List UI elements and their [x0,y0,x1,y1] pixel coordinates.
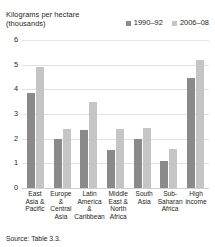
x-axis-category-label-line: Latin [74,190,104,198]
x-axis-category-label-line: Middle [106,190,131,198]
bar-group [102,40,129,188]
x-axis-category-label: Europe&CentralAsia [48,190,74,232]
x-axis-category-label-line: Africa [158,205,183,213]
bar[interactable] [27,93,35,188]
x-axis-category-label-line: Sub- [158,190,183,198]
x-axis-category-label: SouthAsia [131,190,157,232]
x-axis-category-label-line: Central [48,205,73,213]
bar[interactable] [134,139,142,188]
legend-label: 2006–08 [180,19,209,27]
bar[interactable] [89,102,97,188]
x-axis-category-label-line: Asia [48,213,73,221]
chart-header: Kilograms per hectare (thousands) 1990–9… [0,11,215,35]
legend-item[interactable]: 2006–08 [172,19,209,27]
bar-group [49,40,76,188]
bar-series-container [22,40,209,188]
legend-swatch-icon [126,21,131,26]
bar-group [22,40,49,188]
axis-title-line-1: Kilograms per hectare [6,10,79,19]
x-axis-category-label-line: East [23,190,48,198]
bar-group [182,40,209,188]
chart-legend: 1990–922006–08 [126,19,209,27]
y-axis-tick-label: 2 [14,135,18,143]
source-note: Source: Table 3.3. [6,235,61,243]
gridline [22,188,209,189]
bar-group [156,40,183,188]
bar-group [129,40,156,188]
bar[interactable] [169,149,177,188]
bar[interactable] [196,60,204,188]
legend-item[interactable]: 1990–92 [126,19,163,27]
bar[interactable] [63,129,71,188]
x-axis-category-label: MiddleEast &NorthAfrica [105,190,131,232]
bar[interactable] [116,129,124,188]
bar-group [75,40,102,188]
x-axis-category-label: EastAsia &Pacific [22,190,48,232]
x-axis-category-label: Sub-SaharanAfrica [157,190,183,232]
y-axis-ticks: 0123456 [0,40,22,188]
x-axis-category-label: Highincome [183,190,209,232]
x-axis-category-label-line: Asia [132,198,157,206]
x-axis-category-label: LatinAmerica&Caribbean [74,190,105,232]
x-axis-category-label-line: High [184,190,209,198]
y-axis-tick-label: 1 [14,159,18,167]
x-axis-category-label-line: income [184,198,209,206]
y-axis-tick-label: 5 [14,61,18,69]
bar[interactable] [54,139,62,188]
x-axis-category-label-line: America [74,198,104,206]
x-axis-category-label-line: North [106,205,131,213]
x-axis-category-label-line: East & [106,198,131,206]
bar[interactable] [107,150,115,188]
bar[interactable] [187,78,195,188]
y-axis-tick-label: 4 [14,85,18,93]
chart-figure: Kilograms per hectare (thousands) 1990–9… [0,0,215,247]
bar[interactable] [80,130,88,188]
x-axis-category-label-line: Africa [106,213,131,221]
y-axis-tick-label: 0 [14,184,18,192]
y-axis-tick-label: 3 [14,110,18,118]
x-axis-category-label-line: Europe [48,190,73,198]
x-axis-category-label-line: Saharan [158,198,183,206]
x-axis-category-labels: EastAsia &PacificEurope&CentralAsiaLatin… [22,190,209,232]
legend-label: 1990–92 [134,19,163,27]
x-axis-category-label-line: Pacific [23,205,48,213]
bar[interactable] [160,161,168,188]
axis-title-line-2: (thousands) [6,20,116,29]
x-axis-category-label-line: South [132,190,157,198]
bar[interactable] [143,128,151,188]
x-axis-category-label-line: & [74,205,104,213]
legend-swatch-icon [172,21,177,26]
x-axis-category-label-line: & [48,198,73,206]
axis-title: Kilograms per hectare (thousands) [6,11,116,28]
bar[interactable] [36,67,44,188]
x-axis-category-label-line: Asia & [23,198,48,206]
x-axis-category-label-line: Caribbean [74,213,104,221]
y-axis-tick-label: 6 [14,36,18,44]
